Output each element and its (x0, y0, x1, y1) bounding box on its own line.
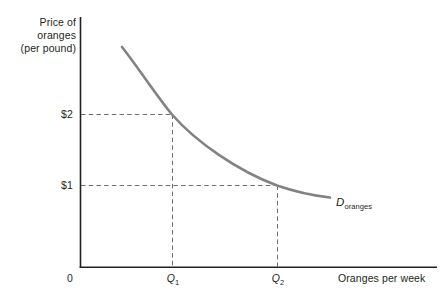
x-tick-label-q2: Q2 (266, 272, 290, 287)
x-tick-q2-subscript: 2 (280, 278, 284, 287)
y-axis-title-line-2: oranges (0, 29, 76, 42)
demand-curve-label-subscript: oranges (344, 202, 372, 211)
demand-curve-figure: Price of oranges (per pound) $2 $1 0 Q1 … (0, 0, 442, 295)
x-tick-label-q1: Q1 (161, 272, 185, 287)
x-tick-q1-subscript: 1 (175, 278, 179, 287)
origin-label: 0 (56, 272, 73, 285)
x-axis-title: Oranges per week (338, 272, 425, 285)
demand-curve-label: Doranges (336, 196, 372, 211)
y-tick-label-2-dollars: $2 (46, 108, 73, 121)
y-axis-title-line-1: Price of (0, 16, 76, 29)
x-tick-q2-symbol: Q (272, 272, 280, 284)
x-tick-q1-symbol: Q (167, 272, 175, 284)
y-axis-title-line-3: (per pound) (0, 42, 76, 55)
demand-curve-line (122, 47, 330, 198)
y-tick-label-1-dollar: $1 (46, 179, 73, 192)
y-axis-title: Price of oranges (per pound) (0, 16, 76, 54)
